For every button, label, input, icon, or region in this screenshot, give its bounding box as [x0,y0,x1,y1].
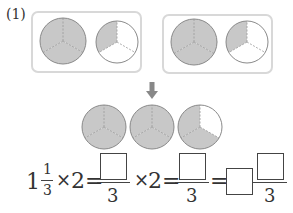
fraction-denominator: 3 [43,182,52,198]
fraction-denominator: 3 [107,185,118,206]
equation: 1 1 3 × 2 = 3 × 2 = 3 = 3 [0,152,293,212]
equals-sign: = [162,168,180,193]
result-pie-1 [82,105,126,149]
fraction-bar [97,182,130,183]
down-arrow-icon [146,82,158,100]
fraction-numerator: 1 [43,161,52,177]
fraction-bar [253,182,287,183]
fraction-denominator: 3 [186,185,197,206]
multiplier: 2 [71,168,85,193]
group-2-pie-2 [226,21,268,63]
multiplier: 2 [148,168,162,193]
times-sign: × [56,169,71,190]
group-2-pie-1 [171,19,217,65]
result-pie-3 [178,105,222,149]
pie-diagram [0,0,293,150]
answer-box-numerator-3[interactable] [257,153,284,180]
answer-box-numerator-1[interactable] [100,153,127,180]
group-1-pie-2 [96,21,138,63]
group-1-pie-1 [40,18,86,64]
times-sign: × [134,169,149,190]
result-pie-2 [130,105,174,149]
fraction-denominator: 3 [264,185,275,206]
answer-box-whole[interactable] [226,168,253,195]
answer-box-numerator-2[interactable] [179,153,206,180]
fraction-bar [175,182,209,183]
whole-number: 1 [26,169,40,194]
